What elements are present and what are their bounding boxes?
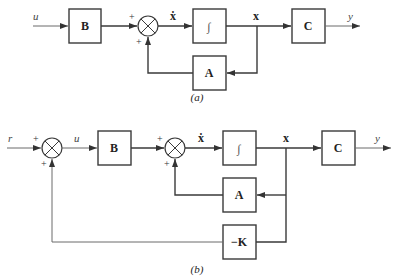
summer1-sign-top: + [33, 133, 39, 144]
input-u-label: u [33, 10, 39, 22]
output-y-label: y [374, 132, 380, 144]
a-to-summer2-wire [175, 159, 223, 195]
diagram-a: u B + + ẋ ∫ x C y A [33, 9, 360, 104]
input-r-label: r [8, 132, 13, 144]
block-c-label: C [304, 19, 313, 33]
block-b-label: B [81, 19, 89, 33]
block-b-label: B [110, 141, 118, 155]
block-c-label: C [334, 141, 343, 155]
control-u-label: u [74, 132, 80, 144]
summer-sign-top: + [129, 11, 135, 22]
summer2-sign-bottom: + [164, 158, 170, 169]
block-neg-k-label: −K [231, 235, 248, 249]
block-a-label: A [205, 66, 214, 80]
summer2-sign-top: + [157, 133, 163, 144]
x-label: x [253, 9, 259, 23]
x-dot-label: ẋ [170, 9, 176, 23]
summing-junction-2 [165, 138, 185, 158]
integrator-label: ∫ [236, 142, 241, 156]
summing-junction-1 [42, 138, 62, 158]
caption-a: (a) [191, 91, 204, 104]
diagram-b: r + + u B + + ẋ ∫ x [7, 131, 391, 276]
summing-junction [138, 16, 158, 36]
integrator-label: ∫ [206, 20, 211, 34]
a-to-summer-wire [148, 37, 193, 73]
x-dot-label: ẋ [198, 131, 204, 145]
k-to-summer1-wire [52, 159, 223, 242]
summer1-sign-bottom: + [41, 158, 47, 169]
output-y-label: y [347, 10, 353, 22]
x-to-a-wire [227, 26, 257, 73]
block-a-label: A [235, 188, 244, 202]
summer-sign-bottom: + [136, 36, 142, 47]
x-label: x [283, 131, 289, 145]
caption-b: (b) [191, 263, 204, 276]
block-diagrams: u B + + ẋ ∫ x C y A [0, 0, 397, 277]
